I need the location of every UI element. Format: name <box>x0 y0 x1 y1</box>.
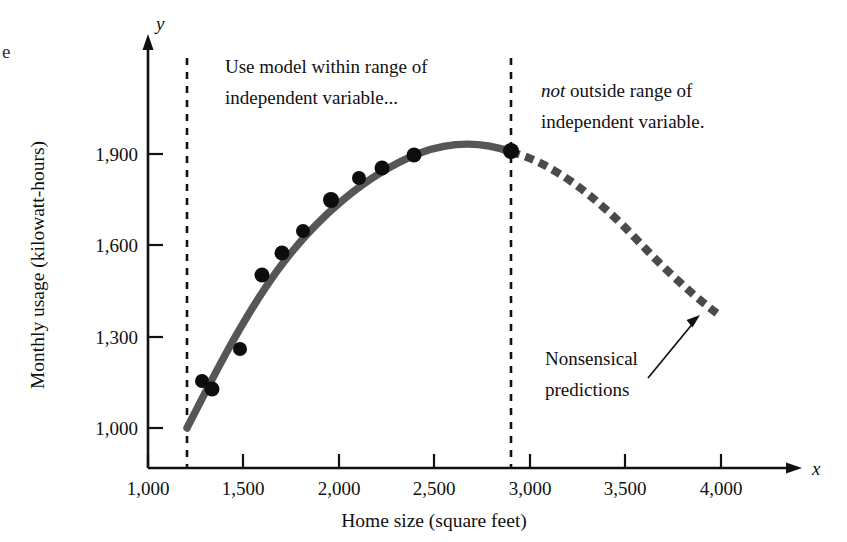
data-point <box>323 192 339 208</box>
data-point <box>375 161 390 176</box>
nonsensical-predictions-arrowhead <box>687 315 701 328</box>
y-axis-title: Monthly usage (kilowatt-hours) <box>27 141 49 389</box>
out-of-range-annotation-line-1: not outside range of <box>541 80 693 101</box>
y-axis-variable-label: y <box>154 13 165 34</box>
nonsensical-predictions-line-2: predictions <box>545 379 629 400</box>
figure-container: e y 1,900 1,600 1,300 1,000 Monthly usag… <box>0 0 847 542</box>
scatter-chart: e y 1,900 1,600 1,300 1,000 Monthly usag… <box>0 0 847 542</box>
out-of-range-italic-word: not <box>541 80 566 101</box>
data-point <box>275 246 290 261</box>
out-of-range-annotation-line-2: independent variable. <box>541 111 705 132</box>
page-edge-text-fragment: e <box>2 41 10 62</box>
y-tick-label-1300: 1,300 <box>95 327 138 348</box>
x-axis-title: Home size (square feet) <box>341 510 527 532</box>
out-of-range-annotation: not outside range of independent variabl… <box>541 80 705 132</box>
x-tick-label-2000: 2,000 <box>318 478 361 499</box>
x-tick-label-1500: 1,500 <box>222 478 265 499</box>
data-point <box>233 342 247 356</box>
nonsensical-predictions-line-1: Nonsensical <box>545 348 638 369</box>
x-axis-arrowhead <box>786 463 802 474</box>
y-tick-label-1600: 1,600 <box>95 235 138 256</box>
data-point <box>352 171 366 185</box>
x-tick-label-2500: 2,500 <box>413 478 456 499</box>
y-tick-label-1000: 1,000 <box>95 418 138 439</box>
fitted-model-curve <box>187 144 511 428</box>
y-tick-label-1900: 1,900 <box>95 144 138 165</box>
x-axis-variable-label: x <box>811 458 821 479</box>
x-tick-label-1000: 1,000 <box>127 478 170 499</box>
data-point <box>205 382 220 397</box>
data-point <box>255 268 270 283</box>
data-point <box>407 148 422 163</box>
in-range-annotation-line-2: independent variable... <box>225 87 398 108</box>
nonsensical-predictions-annotation: Nonsensical predictions <box>545 315 700 400</box>
extrapolated-model-curve <box>511 152 718 314</box>
data-point-group <box>195 143 519 397</box>
out-of-range-rest-text: outside range of <box>565 80 693 101</box>
in-range-annotation-line-1: Use model within range of <box>225 56 428 77</box>
x-tick-label-3000: 3,000 <box>509 478 552 499</box>
nonsensical-predictions-arrow-shaft <box>648 322 694 378</box>
y-axis: y 1,900 1,600 1,300 1,000 Monthly usage … <box>27 13 165 468</box>
in-range-annotation: Use model within range of independent va… <box>225 56 428 108</box>
x-tick-label-3500: 3,500 <box>604 478 647 499</box>
x-tick-label-4000: 4,000 <box>700 478 743 499</box>
data-point <box>503 143 519 159</box>
y-axis-arrowhead <box>143 34 154 50</box>
data-point <box>296 224 310 238</box>
x-axis: x 1,000 1,500 2,000 2,500 3,000 3,500 4,… <box>127 454 821 532</box>
